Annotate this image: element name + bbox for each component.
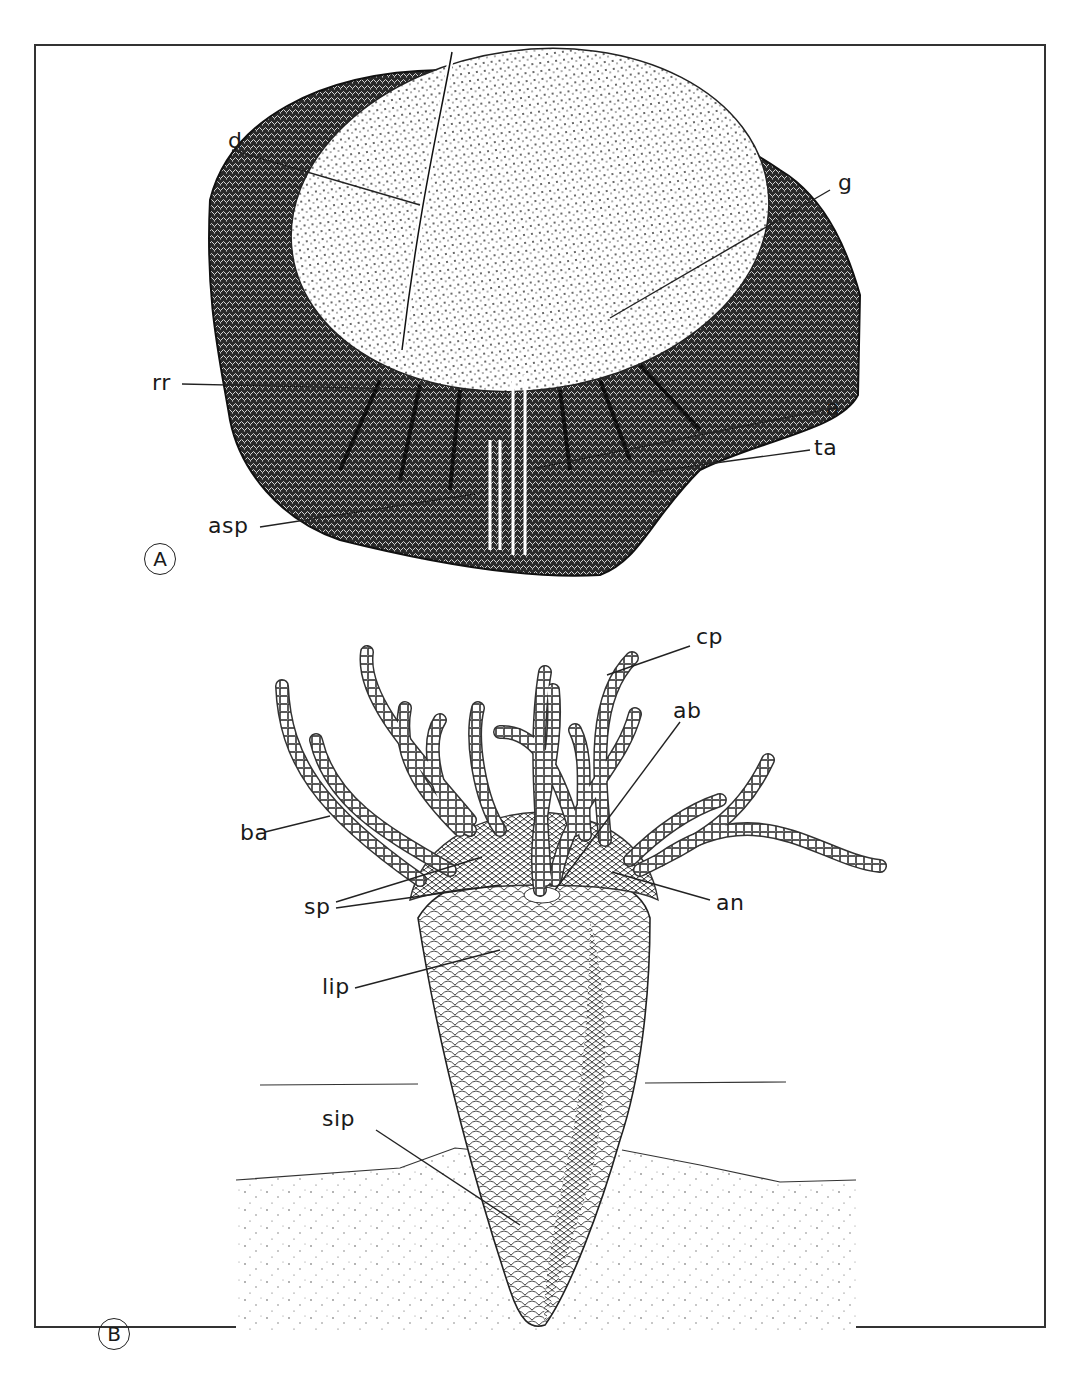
label-ta: ta	[814, 437, 837, 459]
label-sip: sip	[322, 1108, 355, 1130]
label-ba: ba	[240, 822, 268, 844]
label-rr: rr	[152, 372, 171, 394]
figure-artwork	[0, 0, 1072, 1390]
label-sp: sp	[304, 896, 330, 918]
panel-tag-a-text: A	[153, 547, 167, 571]
label-cp: cp	[696, 626, 723, 648]
label-a: a	[826, 397, 840, 419]
label-asp: asp	[208, 515, 248, 537]
panel-a-specimen	[182, 18, 860, 576]
label-lip: lip	[322, 976, 350, 998]
label-g: g	[838, 172, 852, 194]
label-ab: ab	[673, 700, 701, 722]
panel-tag-b: B	[98, 1318, 130, 1350]
panel-tag-a: A	[144, 543, 176, 575]
label-an: an	[716, 892, 744, 914]
panel-tag-b-text: B	[107, 1322, 121, 1346]
label-d: d	[228, 130, 242, 152]
